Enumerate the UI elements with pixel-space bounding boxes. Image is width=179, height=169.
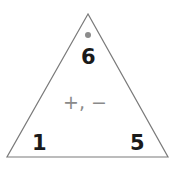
- bottom-left-number: 1: [32, 133, 47, 154]
- bottom-right-number: 5: [130, 133, 145, 154]
- operations-label: +, −: [63, 93, 107, 112]
- top-number: 6: [81, 47, 96, 68]
- marker-dot: [85, 32, 91, 38]
- triangle-outline: [0, 0, 179, 169]
